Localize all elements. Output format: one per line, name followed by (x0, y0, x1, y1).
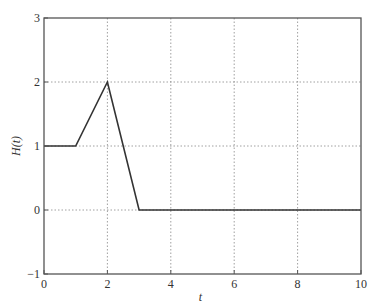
grid-lines (44, 18, 361, 274)
x-axis-ticks: 0246810 (41, 270, 367, 291)
chart: 0246810 −10123 t H(t) (0, 0, 377, 307)
y-tick-label: 2 (34, 75, 40, 89)
y-tick-label: 0 (34, 203, 40, 217)
x-tick-label: 4 (168, 277, 174, 291)
y-tick-label: 3 (34, 11, 40, 25)
y-tick-label: 1 (34, 139, 40, 153)
x-tick-label: 2 (104, 277, 110, 291)
y-axis-ticks: −10123 (27, 11, 48, 281)
x-axis-label: t (199, 290, 203, 304)
x-tick-label: 8 (295, 277, 301, 291)
y-tick-label: −1 (27, 267, 40, 281)
x-tick-label: 0 (41, 277, 47, 291)
y-axis-label: H(t) (9, 136, 23, 157)
x-tick-label: 10 (355, 277, 367, 291)
x-tick-label: 6 (231, 277, 237, 291)
